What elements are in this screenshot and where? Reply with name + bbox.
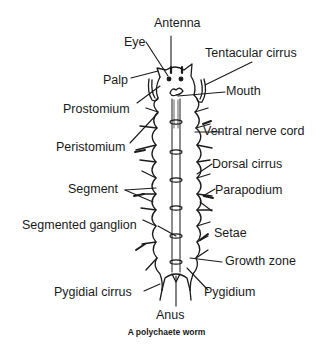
label-anus: Anus [156,308,185,322]
label-segment: Segment [68,182,118,196]
label-ventral-nerve-cord: Ventral nerve cord [203,124,304,138]
label-pygidial-cirrus: Pygidial cirrus [54,285,132,299]
label-growth-zone: Growth zone [225,254,296,268]
mouth-icon [170,88,183,95]
eye-icon [167,77,171,81]
label-segmented-ganglion: Segmented ganglion [22,218,137,232]
label-dorsal-cirrus: Dorsal cirrus [212,157,282,171]
label-mouth: Mouth [226,84,261,98]
label-setae: Setae [214,226,247,240]
label-tentacular-cirrus: Tentacular cirrus [205,46,297,60]
gut-tube [172,99,180,272]
polychaete-worm-diagram: Antenna Eye Tentacular cirrus Palp Mouth… [0,0,333,347]
label-peristomium: Peristomium [56,140,125,154]
label-parapodium: Parapodium [215,183,282,197]
label-eye: Eye [124,35,146,49]
label-palp: Palp [103,73,128,87]
body-outline-right [190,95,201,290]
label-antenna: Antenna [154,16,201,30]
label-prostomium: Prostomium [63,102,130,116]
label-pygidium: Pygidium [204,285,255,299]
figure-caption: A polychaete worm [0,327,333,337]
